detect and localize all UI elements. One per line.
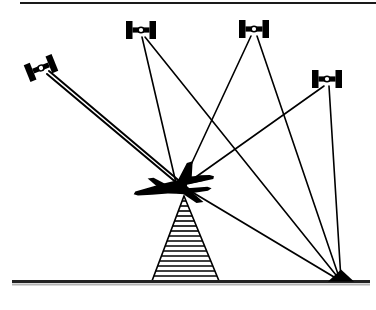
ground-line: [12, 282, 370, 285]
signal-path-sat1-ground: [49, 71, 190, 190]
satellite-3[interactable]: [239, 20, 269, 38]
satellite-2[interactable]: [126, 21, 156, 39]
diagram-canvas: [0, 0, 376, 310]
coverage-beam: [152, 196, 219, 281]
signal-path-sat2-aircraft: [142, 37, 176, 183]
satellite-1[interactable]: [24, 54, 59, 82]
signal-path-aircraft-ground: [192, 192, 339, 280]
signal-path-sat4-aircraft: [186, 86, 324, 184]
satellite-4[interactable]: [312, 70, 342, 88]
gps-aircraft-diagram: GPS satellite constellation tracking an …: [0, 0, 376, 310]
beam-outline: [152, 196, 219, 281]
signal-path-sat1-aircraft: [47, 74, 178, 184]
aircraft[interactable]: [130, 158, 217, 211]
signal-path-sat3-ground: [257, 36, 340, 280]
